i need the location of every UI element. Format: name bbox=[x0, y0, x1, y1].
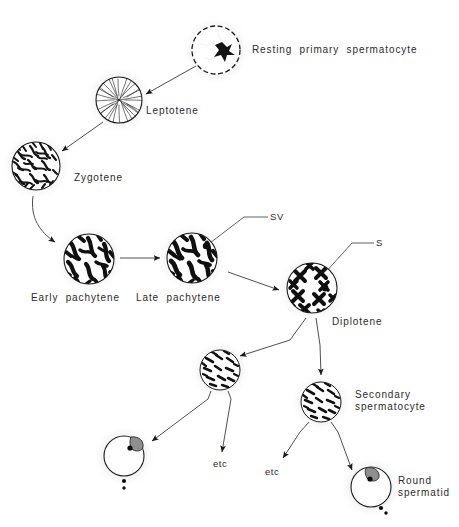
label-early-pachytene: Early pachytene bbox=[31, 292, 120, 304]
acrosomal-granule bbox=[367, 476, 372, 481]
arrow-diplotene-to-secondary bbox=[316, 318, 321, 375]
arrow-resting-to-leptotene bbox=[146, 66, 196, 94]
arrow-late-pachytene-to-diplotene bbox=[228, 272, 279, 290]
label-leptotene: Leptotene bbox=[146, 105, 199, 117]
label-late-pachytene: Late pachytene bbox=[136, 292, 221, 304]
arrow-dividing-to-spermatid-left bbox=[152, 391, 211, 441]
arrow-leptotene-to-zygotene bbox=[62, 122, 103, 151]
label-secondary-spermatocyte-line2: spermatocyte bbox=[355, 401, 426, 413]
label-round-spermatid-line2: spermatid bbox=[398, 487, 450, 499]
label-zygotene: Zygotene bbox=[74, 172, 123, 184]
nuclear-envelope bbox=[192, 26, 240, 74]
label-sv: SV bbox=[270, 211, 284, 222]
cytoplasmic-granule-2 bbox=[384, 511, 387, 514]
resting-primary-spermatocyte-cell bbox=[192, 26, 240, 74]
label-etc-right: etc bbox=[265, 466, 279, 477]
secondary-spermatocyte-cell bbox=[301, 382, 341, 422]
label-diplotene: Diplotene bbox=[332, 316, 382, 328]
arrow-zygotene-to-early-pachytene bbox=[32, 196, 55, 242]
label-secondary-spermatocyte-line1: Secondary bbox=[355, 389, 411, 401]
label-resting-primary-spermatocyte: Resting primary spermatocyte bbox=[252, 44, 417, 56]
sex-vesicle bbox=[203, 243, 209, 249]
cytoplasmic-granule-2 bbox=[122, 486, 125, 489]
cytoplasmic-granule-1 bbox=[379, 506, 383, 510]
zygotene-cell bbox=[12, 142, 60, 190]
cytoplasmic-granule-1 bbox=[122, 479, 126, 483]
label-etc-left: etc bbox=[213, 458, 227, 469]
acrosomal-granule bbox=[127, 445, 132, 450]
label-s: S bbox=[376, 237, 383, 248]
arrow-diplotene-to-dividing-cell bbox=[240, 318, 306, 356]
label-round-spermatid-line1: Round bbox=[398, 475, 432, 487]
spermatogenesis-diagram bbox=[0, 0, 459, 527]
dividing-cell bbox=[200, 350, 240, 390]
sex-chromosome bbox=[322, 285, 329, 292]
diagram-page: Resting primary spermatocyte Leptotene Z… bbox=[0, 0, 459, 527]
